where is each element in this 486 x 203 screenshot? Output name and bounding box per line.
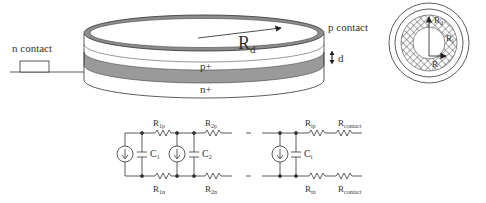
resistor-rip	[309, 130, 325, 136]
p-contact-label: p contact	[328, 21, 368, 33]
label-c2: C2	[202, 148, 212, 160]
label-rin: Rin	[305, 184, 316, 195]
resistor-rin	[309, 173, 325, 179]
top-view-center-radius-label: R	[432, 59, 438, 69]
resistor-rcontact-bottom	[336, 173, 352, 179]
label-r1p: R1p	[153, 118, 165, 129]
label-r2p: R2p	[205, 118, 217, 129]
label-ci: Ci	[304, 148, 313, 160]
resistor-rcontact-top	[336, 130, 352, 136]
disk-side-view	[10, 15, 335, 98]
n-contact-label: n contact	[12, 42, 52, 54]
resistor-r2n	[205, 173, 221, 179]
label-rip: Rip	[305, 118, 316, 129]
label-rcontact-bottom: Rcontact	[338, 184, 362, 195]
label-rcontact-top: Rcontact	[338, 118, 362, 129]
label-r1n: R1n	[153, 184, 165, 195]
resistor-r2p	[205, 130, 221, 136]
label-c1: C1	[150, 148, 160, 160]
thickness-label: d	[338, 52, 344, 64]
device-diagram: n contact p contact Rd d p+ n+ Rd Ri R	[0, 0, 486, 203]
label-r2n: R2n	[205, 184, 217, 195]
n-layer-label: n+	[200, 83, 212, 95]
n-contact-pad	[20, 61, 49, 72]
resistor-r1p	[155, 130, 171, 136]
disk-top-view	[389, 3, 469, 83]
resistor-r1n	[155, 173, 171, 179]
p-layer-label: p+	[200, 60, 212, 72]
